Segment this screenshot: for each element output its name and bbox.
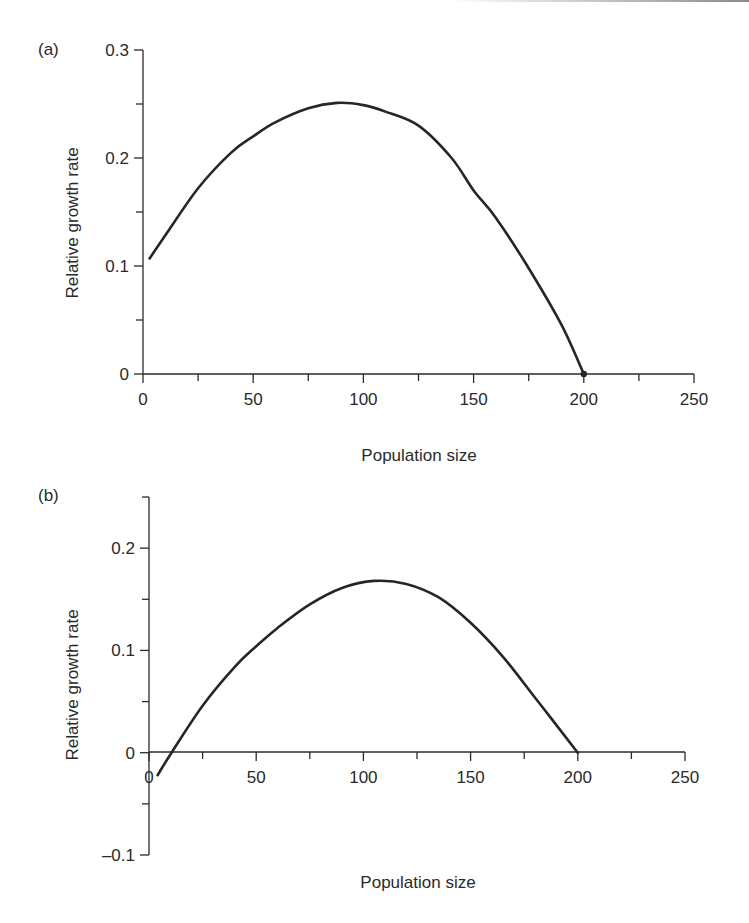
- y-axis-title-a: Relative growth rate: [63, 147, 82, 298]
- x-tick-label: 250: [680, 390, 708, 409]
- x-tick-label: 150: [456, 768, 484, 787]
- axes-a: [143, 50, 694, 374]
- chart-panel-b: (b) 050100150200250–0.100.10.2 Populatio…: [38, 486, 699, 892]
- ticks-a: 05010015020025000.10.20.3: [105, 41, 708, 409]
- ticks-b: 050100150200250–0.100.10.2: [102, 497, 699, 865]
- chart-panel-a: (a) 05010015020025000.10.20.3 Population…: [38, 40, 708, 465]
- y-tick-label: –0.1: [102, 846, 135, 865]
- curve-b: [158, 581, 578, 776]
- panel-label-a: (a): [38, 40, 59, 59]
- x-tick-label: 200: [570, 390, 598, 409]
- x-axis-title-a: Population size: [361, 446, 476, 465]
- y-tick-label: 0.1: [111, 641, 135, 660]
- x-tick-label: 50: [244, 390, 263, 409]
- x-tick-label: 100: [349, 390, 377, 409]
- x-tick-label: 250: [671, 768, 699, 787]
- y-tick-label: 0: [126, 744, 135, 763]
- x-tick-label: 200: [564, 768, 592, 787]
- figure: (a) 05010015020025000.10.20.3 Population…: [0, 0, 749, 923]
- curve-a: [150, 103, 584, 374]
- x-tick-label: 50: [247, 768, 266, 787]
- y-axis-title-b: Relative growth rate: [63, 609, 82, 760]
- panel-label-b: (b): [38, 486, 59, 505]
- y-tick-label: 0.2: [105, 149, 129, 168]
- axes-b: [149, 497, 685, 855]
- x-tick-label: 0: [138, 390, 147, 409]
- x-tick-label: 0: [144, 768, 153, 787]
- x-tick-label: 100: [349, 768, 377, 787]
- y-tick-label: 0: [120, 365, 129, 384]
- y-tick-label: 0.3: [105, 41, 129, 60]
- end-point-a: [581, 371, 587, 377]
- y-tick-label: 0.2: [111, 539, 135, 558]
- x-tick-label: 150: [459, 390, 487, 409]
- y-tick-label: 0.1: [105, 257, 129, 276]
- x-axis-title-b: Population size: [360, 873, 475, 892]
